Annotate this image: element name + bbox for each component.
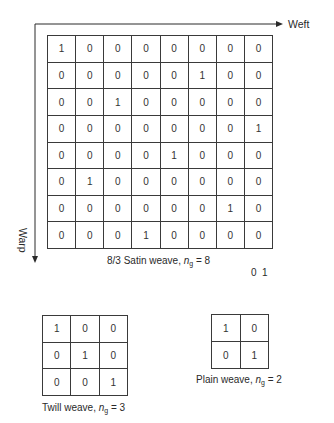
- matrix-cell: 0: [48, 63, 76, 90]
- matrix-cell: 0: [132, 116, 160, 143]
- matrix-cell: 0: [104, 143, 132, 170]
- matrix-cell: 0: [245, 36, 273, 63]
- matrix-cell: 0: [217, 169, 245, 196]
- matrix-cell: 0: [104, 169, 132, 196]
- satin-weave-matrix: 1000000000000100001000000000000100001000…: [47, 35, 273, 249]
- matrix-cell: 0: [189, 36, 217, 63]
- matrix-cell: 0: [189, 169, 217, 196]
- matrix-cell: 0: [245, 196, 273, 223]
- twill-weave-caption: Twill weave, ng = 3: [42, 402, 125, 417]
- matrix-cell: 0: [189, 222, 217, 249]
- matrix-cell: 0: [245, 63, 273, 90]
- matrix-cell: 0: [48, 116, 76, 143]
- matrix-cell: 1: [48, 36, 76, 63]
- matrix-cell: 0: [132, 63, 160, 90]
- matrix-cell: 1: [132, 222, 160, 249]
- matrix-cell: 0: [217, 222, 245, 249]
- matrix-cell: 0: [48, 196, 76, 223]
- weft-axis-label: Weft: [288, 18, 309, 30]
- matrix-cell: 0: [217, 89, 245, 116]
- matrix-cell: 0: [189, 196, 217, 223]
- matrix-cell: 0: [104, 63, 132, 90]
- matrix-cell: 0: [104, 36, 132, 63]
- matrix-cell: 0: [161, 63, 189, 90]
- satin-weave-caption: 8/3 Satin weave, ng = 8: [107, 255, 210, 270]
- matrix-cell: 1: [212, 315, 241, 342]
- matrix-cell: 0: [104, 196, 132, 223]
- matrix-cell: 0: [76, 143, 104, 170]
- matrix-cell: 0: [217, 116, 245, 143]
- weft-axis-arrow: [35, 21, 283, 27]
- matrix-cell: 1: [100, 369, 128, 396]
- matrix-cell: 0: [245, 169, 273, 196]
- matrix-cell: 0: [104, 222, 132, 249]
- matrix-cell: 1: [217, 196, 245, 223]
- matrix-cell: 0: [161, 36, 189, 63]
- matrix-cell: 0: [76, 116, 104, 143]
- matrix-cell: 0: [245, 143, 273, 170]
- matrix-cell: 0: [132, 196, 160, 223]
- matrix-cell: 0: [76, 196, 104, 223]
- matrix-cell: 0: [71, 369, 99, 396]
- matrix-cell: 1: [76, 169, 104, 196]
- matrix-cell: 1: [161, 143, 189, 170]
- matrix-cell: 0: [132, 36, 160, 63]
- matrix-cell: 1: [241, 342, 270, 369]
- matrix-cell: 0: [76, 36, 104, 63]
- matrix-cell: 0: [76, 222, 104, 249]
- matrix-cell: 0: [189, 89, 217, 116]
- matrix-cell: 0: [161, 222, 189, 249]
- matrix-cell: 0: [76, 89, 104, 116]
- matrix-cell: 0: [100, 316, 128, 343]
- matrix-cell: 0: [245, 89, 273, 116]
- matrix-cell: 1: [104, 89, 132, 116]
- matrix-cell: 0: [161, 169, 189, 196]
- matrix-cell: 1: [43, 316, 71, 343]
- twill-weave-matrix: 100010001: [42, 315, 128, 396]
- matrix-cell: 0: [48, 143, 76, 170]
- matrix-cell: 0: [161, 89, 189, 116]
- matrix-cell: 0: [104, 116, 132, 143]
- binary-values-legend: 0 1: [251, 267, 268, 279]
- matrix-cell: 0: [217, 63, 245, 90]
- matrix-cell: 0: [161, 116, 189, 143]
- plain-weave-caption: Plain weave, ng = 2: [196, 374, 282, 389]
- matrix-cell: 0: [161, 196, 189, 223]
- plain-weave-matrix: 1001: [211, 314, 269, 369]
- matrix-cell: 0: [217, 143, 245, 170]
- matrix-cell: 1: [245, 116, 273, 143]
- matrix-cell: 0: [212, 342, 241, 369]
- matrix-cell: 0: [48, 169, 76, 196]
- warp-axis-label: Warp: [17, 228, 29, 253]
- matrix-cell: 1: [71, 343, 99, 370]
- matrix-cell: 0: [43, 343, 71, 370]
- warp-axis-arrow: [32, 24, 38, 263]
- matrix-cell: 0: [132, 143, 160, 170]
- matrix-cell: 0: [100, 343, 128, 370]
- matrix-cell: 0: [132, 89, 160, 116]
- matrix-cell: 0: [76, 63, 104, 90]
- matrix-cell: 1: [189, 63, 217, 90]
- matrix-cell: 0: [245, 222, 273, 249]
- matrix-cell: 0: [132, 169, 160, 196]
- matrix-cell: 0: [48, 89, 76, 116]
- matrix-cell: 0: [48, 222, 76, 249]
- matrix-cell: 0: [71, 316, 99, 343]
- matrix-cell: 0: [189, 116, 217, 143]
- matrix-cell: 0: [217, 36, 245, 63]
- matrix-cell: 0: [241, 315, 270, 342]
- matrix-cell: 0: [43, 369, 71, 396]
- matrix-cell: 0: [189, 143, 217, 170]
